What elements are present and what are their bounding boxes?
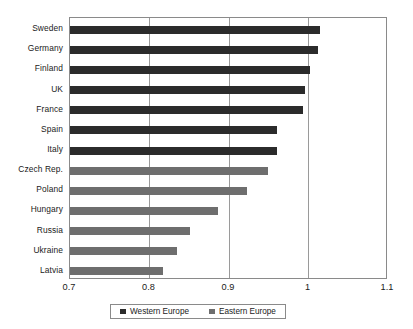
- category-label-italy: Italy: [47, 144, 63, 155]
- bar-france: [70, 106, 303, 114]
- category-label-latvia: Latvia: [40, 265, 63, 276]
- bar-czech-rep: [70, 167, 268, 175]
- bar-italy: [70, 147, 277, 155]
- bar-sweden: [70, 26, 320, 34]
- category-label-ukraine: Ukraine: [33, 245, 63, 256]
- category-label-germany: Germany: [28, 43, 63, 54]
- category-label-russia: Russia: [37, 225, 63, 236]
- x-tick-label-0.8: 0.8: [142, 281, 155, 293]
- bar-poland: [70, 187, 247, 195]
- legend-label: Western Europe: [130, 307, 189, 317]
- category-axis: SwedenGermanyFinlandUKFranceSpainItalyCz…: [0, 17, 66, 279]
- bar-russia: [70, 227, 190, 235]
- x-tick-label-1.1: 1.1: [381, 281, 394, 293]
- x-tick-label-1: 1: [305, 281, 310, 293]
- legend-swatch-icon: [209, 309, 215, 314]
- chart-legend: Western EuropeEastern Europe: [110, 304, 286, 319]
- legend-label: Eastern Europe: [219, 307, 276, 317]
- category-label-uk: UK: [51, 84, 63, 95]
- plot-area: [69, 17, 387, 279]
- category-label-czech-rep: Czech Rep.: [18, 164, 63, 175]
- bar-uk: [70, 86, 305, 94]
- bar-ukraine: [70, 247, 177, 255]
- category-label-finland: Finland: [35, 63, 63, 74]
- value-axis: 0.70.80.911.1: [69, 281, 387, 295]
- category-label-sweden: Sweden: [32, 23, 63, 34]
- category-label-poland: Poland: [36, 184, 63, 195]
- bar-chart: SwedenGermanyFinlandUKFranceSpainItalyCz…: [0, 0, 413, 329]
- bar-latvia: [70, 267, 163, 275]
- category-label-hungary: Hungary: [31, 204, 63, 215]
- legend-item-eastern-europe[interactable]: Eastern Europe: [209, 307, 276, 317]
- bar-spain: [70, 126, 277, 134]
- gridline-1: [308, 18, 309, 278]
- legend-swatch-icon: [120, 309, 126, 314]
- bar-finland: [70, 66, 310, 74]
- bar-hungary: [70, 207, 218, 215]
- bar-germany: [70, 46, 318, 54]
- x-tick-label-0.9: 0.9: [222, 281, 235, 293]
- x-tick-label-0.7: 0.7: [63, 281, 76, 293]
- category-label-spain: Spain: [41, 124, 63, 135]
- category-label-france: France: [36, 104, 63, 115]
- legend-item-western-europe[interactable]: Western Europe: [120, 307, 189, 317]
